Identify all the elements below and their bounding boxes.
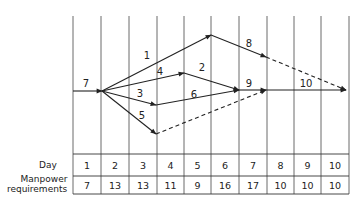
day-cell: 4 — [167, 160, 173, 171]
manpower-row-label-line2: requirements — [7, 184, 68, 194]
day-row-label: Day — [39, 160, 57, 170]
day-cell: 2 — [112, 160, 118, 171]
day-cell: 6 — [222, 160, 228, 171]
manpower-cell: 10 — [274, 180, 286, 191]
activity-arrow — [102, 35, 211, 91]
activity-labels: 71435268910 — [83, 38, 313, 121]
manpower-row-label-line1: Manpower — [21, 174, 68, 184]
manpower-cell: 10 — [301, 180, 313, 191]
day-cell: 10 — [329, 160, 341, 171]
network-diagram: 71435268910 Day Manpower requirements 17… — [0, 0, 360, 205]
activity-label: 1 — [144, 50, 150, 61]
activity-label: 8 — [246, 38, 252, 49]
day-cell: 1 — [84, 160, 90, 171]
activity-arrow — [211, 35, 266, 57]
activity-label: 4 — [157, 66, 163, 77]
manpower-cell: 10 — [329, 180, 341, 191]
day-cell: 3 — [140, 160, 146, 171]
manpower-cell: 9 — [194, 180, 200, 191]
manpower-cell: 16 — [219, 180, 231, 191]
day-cell: 8 — [277, 160, 283, 171]
manpower-cell: 13 — [137, 180, 149, 191]
activity-label: 6 — [191, 89, 197, 100]
activity-label: 5 — [139, 110, 145, 121]
activity-arrow — [184, 73, 239, 90]
day-cell: 5 — [194, 160, 200, 171]
activity-label: 7 — [83, 78, 89, 89]
activity-label: 2 — [199, 62, 205, 73]
activity-label: 10 — [300, 78, 313, 89]
day-cell: 7 — [250, 160, 256, 171]
manpower-table: Day Manpower requirements 17213313411596… — [7, 160, 341, 194]
manpower-cell: 17 — [247, 180, 259, 191]
manpower-cell: 13 — [109, 180, 121, 191]
manpower-cell: 11 — [164, 180, 176, 191]
activity-arrow — [156, 90, 239, 105]
day-cell: 9 — [304, 160, 310, 171]
activity-label: 3 — [137, 88, 143, 99]
activity-label: 9 — [246, 78, 252, 89]
manpower-cell: 7 — [84, 180, 90, 191]
